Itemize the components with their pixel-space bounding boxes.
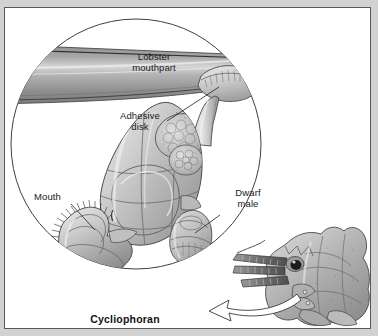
figure-root: Lobster mouthpart Adhesive disk Mouth Dw… xyxy=(0,0,378,336)
label-lobster-mouthpart: Lobster mouthpart xyxy=(118,52,190,73)
label-adhesive-disk: Adhesive disk xyxy=(109,111,171,132)
figure-caption: Cycliophoran xyxy=(5,313,245,325)
label-dwarf-male: Dwarf male xyxy=(224,188,272,209)
lobster-antennae xyxy=(233,254,289,287)
figure-panel: Lobster mouthpart Adhesive disk Mouth Dw… xyxy=(4,7,371,329)
callout-line xyxy=(237,240,265,253)
lobster-eye xyxy=(286,257,304,272)
label-mouth: Mouth xyxy=(34,192,61,203)
